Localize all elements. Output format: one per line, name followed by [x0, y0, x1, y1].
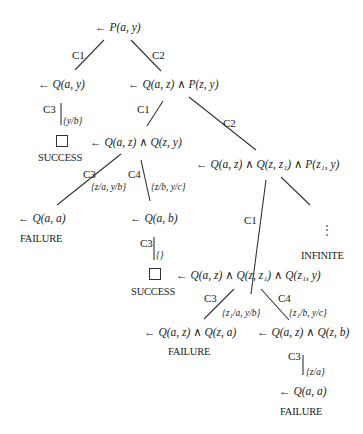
node-root: ← P(a, y)	[95, 21, 141, 33]
edge-label-n6-success: C3	[140, 237, 153, 249]
status-failure-2: FAILURE	[168, 346, 210, 358]
status-success-2: SUCCESS	[131, 286, 175, 298]
node-n4: ← Q(a, z) ∧ Q(z, z₁) ∧ P(z₁, y)	[196, 158, 339, 170]
node-n2: ← Q(a, z) ∧ P(z, y)	[128, 78, 219, 90]
status-failure-1: FAILURE	[20, 233, 62, 245]
node-n9: ← Q(a, z) ∧ Q(z, b)	[257, 326, 349, 338]
node-n10: ← Q(a, a)	[279, 385, 327, 397]
node-n7: ← Q(a, z) ∧ Q(z, z₁) ∧ Q(z₁, y)	[176, 269, 321, 281]
empty-clause-box-1	[56, 135, 68, 147]
subst-n1-success: {y/b}	[63, 115, 82, 127]
edge-label-n3-n5: C3	[83, 168, 96, 180]
resolution-tree-diagram: ← P(a, y) C1 C2 ← Q(a, y) ← Q(a, z) ∧ P(…	[0, 0, 363, 434]
node-n5: ← Q(a, a)	[18, 212, 66, 224]
edge-label-root-n1: C1	[72, 49, 85, 61]
edge-label-n9-n10: C3	[288, 350, 301, 362]
ellipsis-vertical: ⋮	[321, 225, 333, 235]
subst-n6-success: {}	[156, 249, 164, 261]
subst-n7-n8: {z₁/a, y/b}	[222, 307, 260, 319]
edge-label-n3-n6: C4	[128, 168, 141, 180]
status-success-1: SUCCESS	[38, 152, 82, 164]
subst-n3-n6: {z/b, y/c}	[151, 181, 186, 193]
edge-n4-infinite	[281, 177, 310, 205]
subst-n7-n9: {z₁/b, y/c}	[289, 307, 327, 319]
edge-label-n7-n8: C3	[204, 292, 217, 304]
edge-n3-n6	[141, 160, 150, 201]
empty-clause-box-2	[149, 268, 161, 280]
node-n1: ← Q(a, y)	[38, 78, 85, 90]
edge-label-n4-n7: C1	[244, 214, 257, 226]
status-failure-3: FAILURE	[280, 406, 322, 418]
edge-label-root-n2: C2	[152, 49, 165, 61]
edge-label-n1-success: C3	[43, 103, 56, 115]
subst-n9-n10: {z/a}	[306, 366, 325, 378]
node-n8: ← Q(a, z) ∧ Q(z, a)	[144, 326, 236, 338]
status-infinite: INFINITE	[301, 250, 344, 262]
edge-label-n2-n4: C2	[223, 117, 236, 129]
edge-label-n7-n9: C4	[278, 292, 291, 304]
edge-label-n2-n3: C1	[137, 103, 150, 115]
subst-n3-n5: {z/a, y/b}	[91, 181, 126, 193]
node-n6: ← Q(a, b)	[130, 212, 178, 224]
node-n3: ← Q(a, z) ∧ Q(z, y)	[90, 136, 182, 148]
